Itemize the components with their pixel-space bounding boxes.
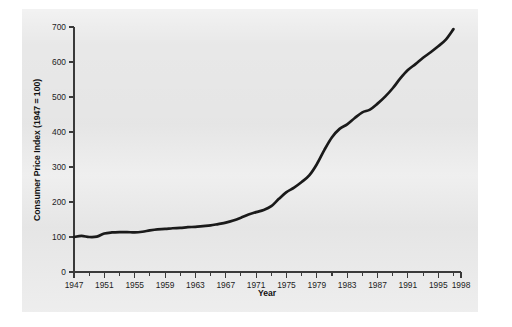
x-axis-ticks [74,272,461,278]
y-tick-label: 600 [52,57,66,67]
x-tick-label: 1947 [65,280,84,290]
y-axis-ticks [69,27,74,272]
x-tick-label: 1967 [216,280,235,290]
x-axis-title: Year [258,288,277,298]
x-tick-label: 1998 [452,280,471,290]
chart-figure: 0100200300400500600700 19471951195519591… [0,0,512,327]
cpi-series-line [74,29,453,237]
x-tick-label: 1955 [125,280,144,290]
x-tick-label: 1979 [308,280,327,290]
y-tick-label: 500 [52,92,66,102]
x-tick-label: 1951 [95,280,114,290]
cpi-line-chart: 0100200300400500600700 19471951195519591… [0,0,512,327]
y-tick-label: 0 [61,267,66,277]
y-axis-title: Consumer Price Index (1947 = 100) [32,79,42,221]
x-tick-label: 1987 [368,280,387,290]
x-tick-label: 1995 [429,280,448,290]
y-tick-label: 400 [52,127,66,137]
x-tick-label: 1963 [186,280,205,290]
y-tick-label: 300 [52,162,66,172]
x-tick-label: 1991 [399,280,418,290]
x-tick-label: 1983 [338,280,357,290]
x-axis-minor-ticks [89,272,453,276]
x-tick-label: 1975 [277,280,296,290]
x-tick-label: 1959 [156,280,175,290]
y-tick-label: 200 [52,197,66,207]
y-tick-label: 100 [52,232,66,242]
y-axis-tick-labels: 0100200300400500600700 [52,22,66,277]
y-tick-label: 700 [52,22,66,32]
